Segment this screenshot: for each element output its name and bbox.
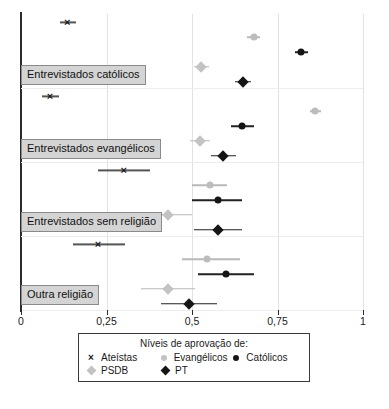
plot-area: ×××× (21, 14, 363, 310)
legend-row: ×AteístasEvangélicosCatólicos (85, 352, 303, 363)
legend-x-icon: × (88, 353, 94, 363)
legend-diamond-icon (160, 366, 170, 376)
legend-item-atestas: ×Ateístas (85, 352, 158, 363)
legend-key-diamond-icon (159, 367, 171, 374)
legend-circle-icon (233, 355, 239, 361)
marker-x-ateistas: × (45, 91, 56, 102)
legend-item-label: Evangélicos (174, 352, 228, 363)
marker-x-ateistas: × (118, 165, 129, 176)
legend-circle-icon (161, 355, 167, 361)
legend-item-label: Ateístas (101, 352, 137, 363)
legend-item-evanglicos: Evangélicos (158, 352, 231, 363)
confidence-interval (182, 258, 239, 260)
marker-circle-evangelicos (204, 256, 211, 263)
group-separator (21, 162, 363, 163)
group-label: Entrevistados evangélicos (21, 139, 161, 159)
marker-circle-evangelicos (312, 108, 319, 115)
legend-item-label: PT (175, 365, 188, 376)
legend-item-label: PSDB (101, 365, 128, 376)
marker-circle-catolicos (298, 49, 305, 56)
legend-item-label: Católicos (246, 352, 287, 363)
legend-row: PSDBPT (85, 365, 303, 376)
legend-key-circle-icon (158, 355, 170, 361)
legend-item-catlicos: Católicos (230, 352, 303, 363)
group-label: Outra religião (21, 285, 99, 305)
chart-legend: Níveis de aprovação de: ×AteístasEvangél… (78, 333, 310, 382)
marker-diamond-pt (238, 76, 249, 87)
legend-item-pt: PT (159, 365, 233, 376)
marker-diamond-pt (212, 224, 223, 235)
marker-circle-evangelicos (250, 34, 257, 41)
marker-circle-evangelicos (206, 182, 213, 189)
legend-key-x-icon: × (85, 353, 97, 363)
marker-diamond-psdb (194, 135, 205, 146)
x-tick-label: 0,25 (96, 315, 116, 327)
x-tick-label: 1 (360, 315, 366, 327)
marker-diamond-pt (218, 150, 229, 161)
legend-diamond-icon (86, 366, 96, 376)
marker-circle-catolicos (223, 271, 230, 278)
group-label: Entrevistados sem religião (21, 212, 162, 232)
marker-circle-catolicos (238, 123, 245, 130)
legend-key-circle-icon (230, 355, 242, 361)
marker-diamond-psdb (162, 283, 173, 294)
legend-title: Níveis de aprovação de: (85, 338, 303, 349)
gridline (363, 14, 364, 310)
group-separator (21, 236, 363, 237)
legend-entries: ×AteístasEvangélicosCatólicosPSDBPT (85, 352, 303, 376)
approval-levels-chart: ×××× 00,250,50,751 Entrevistados católic… (0, 0, 389, 409)
marker-diamond-psdb (195, 61, 206, 72)
marker-x-ateistas: × (62, 17, 73, 28)
marker-circle-catolicos (214, 197, 221, 204)
x-tick-label: 0 (18, 315, 24, 327)
x-tick-label: 0,75 (267, 315, 287, 327)
marker-diamond-psdb (162, 209, 173, 220)
legend-key-diamond-icon (85, 367, 97, 374)
marker-x-ateistas: × (92, 239, 103, 250)
legend-item-psdb: PSDB (85, 365, 159, 376)
x-tick-label: 0,5 (185, 315, 200, 327)
group-label: Entrevistados católicos (21, 65, 146, 85)
group-separator (21, 88, 363, 89)
